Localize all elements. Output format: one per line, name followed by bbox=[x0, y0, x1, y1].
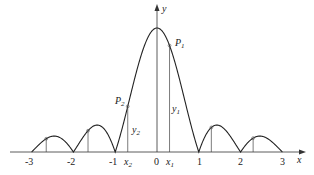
sinc-graph: y x -3 -2 -1 0 1 2 3 P1 y1 x1 P2 y2 x2 bbox=[0, 0, 314, 175]
tick-label: -3 bbox=[25, 156, 33, 167]
point-label-p2: P2 bbox=[114, 95, 125, 108]
point-label-p1: P1 bbox=[174, 37, 185, 50]
marker-lines bbox=[45, 44, 255, 152]
x1-label: x1 bbox=[165, 156, 174, 169]
y1-label: y1 bbox=[171, 103, 180, 116]
tick-label: -2 bbox=[67, 156, 75, 167]
tick-label: 3 bbox=[280, 156, 285, 167]
tick-label: 0 bbox=[154, 156, 159, 167]
y-axis-label: y bbox=[161, 3, 167, 14]
x-axis-label: x bbox=[296, 154, 302, 165]
x-tick-labels: -3 -2 -1 0 1 2 3 bbox=[25, 156, 285, 167]
y2-label: y2 bbox=[131, 124, 140, 137]
tick-label: 1 bbox=[197, 156, 202, 167]
y-axis-arrow-icon bbox=[155, 4, 160, 11]
x2-label: x2 bbox=[123, 156, 132, 169]
tick-label: -1 bbox=[109, 156, 117, 167]
tick-label: 2 bbox=[238, 156, 243, 167]
